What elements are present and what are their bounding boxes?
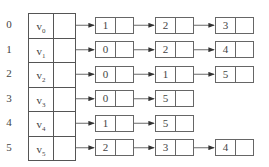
node-value: 2 <box>156 42 176 57</box>
list-node: 5 <box>215 66 254 83</box>
node-next-pointer <box>176 18 193 33</box>
head-pointer-cell <box>53 38 76 64</box>
list-node: 0 <box>95 41 134 58</box>
node-value: 3 <box>156 140 176 155</box>
node-value: 0 <box>96 42 116 57</box>
list-node: 1 <box>95 115 134 132</box>
node-next-pointer <box>116 116 133 131</box>
vertex-subscript: 0 <box>42 27 46 35</box>
node-next-pointer <box>236 140 253 155</box>
vertex-subscript: 3 <box>42 101 46 109</box>
node-value: 1 <box>96 116 116 131</box>
head-pointer-cell <box>53 111 76 137</box>
list-node: 2 <box>95 139 134 156</box>
head-pointer-cell <box>53 136 76 162</box>
node-value: 0 <box>96 91 116 106</box>
node-value: 5 <box>156 116 176 131</box>
list-node: 5 <box>155 90 194 107</box>
vertex-subscript: 5 <box>42 150 46 158</box>
node-next-pointer <box>236 18 253 33</box>
vertex-index: 5 <box>2 141 16 153</box>
node-next-pointer <box>116 18 133 33</box>
vertex-subscript: 1 <box>42 52 46 60</box>
node-next-pointer <box>116 140 133 155</box>
node-value: 2 <box>156 18 176 33</box>
list-node: 0 <box>95 90 134 107</box>
node-next-pointer <box>236 42 253 57</box>
vertex-subscript: 4 <box>42 125 46 133</box>
adjacency-list-diagram: 0v01231v10242v20153v3054v4155v5234 <box>0 0 269 167</box>
node-next-pointer <box>176 42 193 57</box>
node-value: 1 <box>156 67 176 82</box>
node-next-pointer <box>116 42 133 57</box>
node-value: 2 <box>96 140 116 155</box>
head-pointer-cell <box>53 87 76 113</box>
list-node: 1 <box>155 66 194 83</box>
vertex-index: 3 <box>2 92 16 104</box>
vertex-index: 0 <box>2 18 16 30</box>
vertex-subscript: 2 <box>42 76 46 84</box>
list-node: 4 <box>215 139 254 156</box>
node-value: 4 <box>216 42 236 57</box>
list-node: 2 <box>155 41 194 58</box>
node-value: 0 <box>96 67 116 82</box>
node-value: 5 <box>156 91 176 106</box>
list-node: 1 <box>95 17 134 34</box>
list-node: 3 <box>155 139 194 156</box>
node-next-pointer <box>176 116 193 131</box>
node-next-pointer <box>176 67 193 82</box>
list-node: 3 <box>215 17 254 34</box>
node-next-pointer <box>116 91 133 106</box>
node-next-pointer <box>176 140 193 155</box>
list-node: 0 <box>95 66 134 83</box>
node-value: 1 <box>96 18 116 33</box>
vertex-cell: v4 <box>28 111 54 137</box>
vertex-cell: v0 <box>28 13 54 39</box>
vertex-index: 2 <box>2 67 16 79</box>
node-next-pointer <box>176 91 193 106</box>
node-value: 5 <box>216 67 236 82</box>
list-node: 4 <box>215 41 254 58</box>
vertex-cell: v1 <box>28 38 54 64</box>
vertex-cell: v2 <box>28 62 54 88</box>
vertex-cell: v5 <box>28 136 54 162</box>
vertex-cell: v3 <box>28 87 54 113</box>
vertex-index: 4 <box>2 116 16 128</box>
node-next-pointer <box>236 67 253 82</box>
node-next-pointer <box>116 67 133 82</box>
vertex-index: 1 <box>2 43 16 55</box>
node-value: 3 <box>216 18 236 33</box>
list-node: 2 <box>155 17 194 34</box>
node-value: 4 <box>216 140 236 155</box>
list-node: 5 <box>155 115 194 132</box>
head-pointer-cell <box>53 13 76 39</box>
head-pointer-cell <box>53 62 76 88</box>
